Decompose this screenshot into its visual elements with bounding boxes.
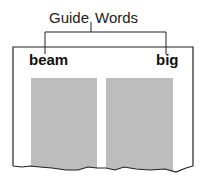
bracket [45,22,166,54]
left-column [31,78,97,170]
guide-word-left: beam [29,51,68,68]
right-column [106,78,173,171]
guide-word-right: big [156,51,179,68]
title-words: Words [95,9,138,26]
title-guide: Guide [49,9,89,26]
dictionary-page-illustration [0,0,205,181]
